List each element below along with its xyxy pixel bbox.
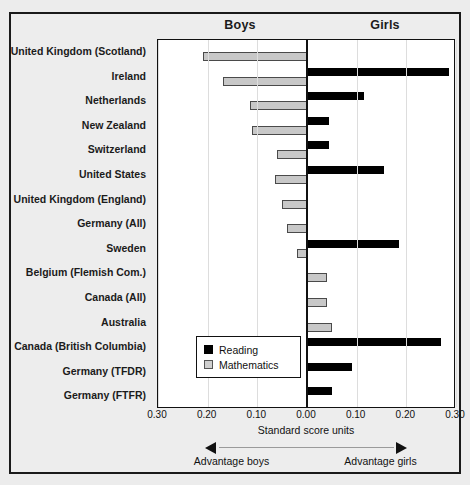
arrow-line: [219, 447, 394, 448]
bar-mathematics: [277, 150, 307, 159]
chart-page: Boys Girls United Kingdom (Scotland)Irel…: [0, 0, 470, 485]
bar-reading: [307, 117, 329, 125]
bar-mathematics: [223, 77, 307, 86]
category-labels: United Kingdom (Scotland)IrelandNetherla…: [0, 39, 152, 408]
category-label: Germany (FTFR): [64, 383, 146, 408]
legend-label-mathematics: Mathematics: [219, 359, 279, 371]
category-label: United Kingdom (England): [14, 187, 146, 212]
gridline: [456, 40, 457, 407]
gridline: [406, 40, 407, 407]
bar-mathematics: [250, 101, 307, 110]
category-label: Germany (All): [77, 211, 146, 236]
category-label: Canada (All): [85, 285, 146, 310]
x-axis-tick-label: 0.20: [197, 409, 216, 420]
zero-axis-line: [306, 40, 308, 407]
category-label: Germany (TFDR): [63, 359, 146, 384]
category-label: Netherlands: [85, 88, 146, 113]
bar-mathematics: [252, 126, 307, 135]
arrow-right-icon: [396, 442, 407, 454]
gridline: [158, 40, 159, 407]
x-axis-ticks: 0.300.200.100.000.100.200.30: [157, 409, 455, 423]
chart-legend: Reading Mathematics: [196, 336, 301, 378]
x-axis-title: Standard score units: [157, 424, 455, 436]
bar-mathematics: [307, 323, 332, 332]
bar-reading: [307, 166, 384, 174]
bar-reading: [307, 363, 352, 371]
bar-reading: [307, 387, 332, 395]
legend-swatch-mathematics: [204, 360, 213, 369]
bar-reading: [307, 338, 441, 346]
bar-mathematics: [275, 175, 307, 184]
advantage-girls-label: Advantage girls: [306, 455, 455, 467]
x-axis-tick-label: 0.00: [296, 409, 315, 420]
legend-item-reading: Reading: [204, 342, 293, 357]
advantage-boys-label: Advantage boys: [157, 455, 306, 467]
gridline: [357, 40, 358, 407]
bar-reading: [307, 141, 329, 149]
x-axis-tick-label: 0.30: [147, 409, 166, 420]
legend-swatch-reading: [204, 345, 213, 354]
advantage-arrows: [157, 441, 455, 454]
category-label: Switzerland: [88, 137, 146, 162]
x-axis-tick-label: 0.10: [247, 409, 266, 420]
header-girls: Girls: [330, 18, 440, 32]
bar-mathematics: [282, 200, 307, 209]
bar-reading: [307, 92, 364, 100]
header-boys: Boys: [180, 18, 300, 32]
legend-label-reading: Reading: [219, 344, 258, 356]
bar-mathematics: [307, 273, 327, 282]
category-label: New Zealand: [82, 113, 146, 138]
x-axis-tick-label: 0.20: [396, 409, 415, 420]
bar-mathematics: [203, 52, 307, 61]
category-label: Sweden: [106, 236, 146, 261]
category-label: Canada (British Columbia): [14, 334, 146, 359]
arrow-left-icon: [205, 442, 216, 454]
category-label: Ireland: [112, 64, 146, 89]
bar-mathematics: [307, 298, 327, 307]
bar-reading: [307, 68, 449, 76]
bar-reading: [307, 240, 399, 248]
x-axis-tick-label: 0.30: [445, 409, 464, 420]
category-label: United States: [79, 162, 146, 187]
x-axis-tick-label: 0.10: [346, 409, 365, 420]
bar-mathematics: [287, 224, 307, 233]
category-label: Belgium (Flemish Com.): [26, 260, 146, 285]
legend-item-mathematics: Mathematics: [204, 357, 293, 372]
category-label: Australia: [101, 310, 146, 335]
category-label: United Kingdom (Scotland): [11, 39, 146, 64]
